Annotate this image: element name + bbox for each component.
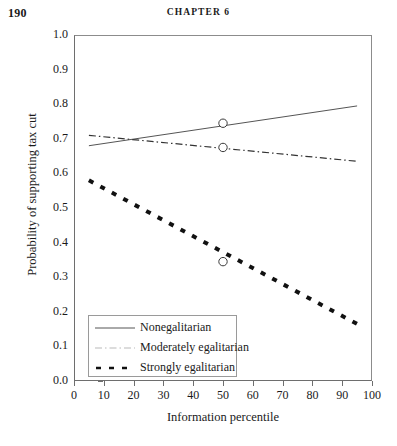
y-axis-tick-labels: 0.00.10.20.30.40.50.60.70.80.91.0 (24, 35, 68, 381)
x-tick-mark (193, 381, 194, 386)
y-tick-label: 0.2 (32, 305, 68, 317)
x-tick-mark (104, 381, 105, 386)
series-line (89, 180, 357, 324)
x-tick-mark (74, 381, 75, 386)
x-tick-mark (372, 381, 373, 386)
x-tick-label: 40 (178, 389, 208, 401)
y-tick-label: 0.4 (32, 236, 68, 248)
running-head: 190 CHAPTER 6 (0, 6, 397, 24)
x-tick-mark (283, 381, 284, 386)
legend-label: Nonegalitarian (140, 319, 211, 335)
x-tick-label: 70 (268, 389, 298, 401)
x-tick-mark (342, 381, 343, 386)
data-point-marker (219, 119, 227, 127)
chapter-title: CHAPTER 6 (0, 7, 397, 17)
x-tick-label: 10 (89, 389, 119, 401)
y-tick-label: 0.8 (32, 97, 68, 109)
x-tick-label: 90 (327, 389, 357, 401)
x-tick-label: 80 (297, 389, 327, 401)
x-tick-label: 30 (148, 389, 178, 401)
legend-line-icon (95, 326, 135, 330)
x-tick-mark (223, 381, 224, 386)
x-tick-label: 50 (208, 389, 238, 401)
x-tick-label: 100 (357, 389, 387, 401)
legend-item-strongly-egalitarian: Strongly egalitarian (89, 357, 238, 377)
legend-item-moderately-egalitarian: Moderately egalitarian (89, 337, 238, 357)
x-tick-label: 60 (238, 389, 268, 401)
y-tick-label: 0.9 (32, 63, 68, 75)
y-tick-label: 1.0 (32, 28, 68, 40)
x-axis-tick-labels: 0102030405060708090100 (74, 381, 372, 405)
x-tick-label: 0 (59, 389, 89, 401)
legend-label: Moderately egalitarian (140, 339, 249, 355)
data-point-marker (219, 143, 227, 151)
x-tick-mark (134, 381, 135, 386)
legend-label: Strongly egalitarian (140, 359, 235, 375)
figure: Probability of supporting tax cut 0.00.1… (0, 24, 397, 444)
y-tick-label: 0.5 (32, 201, 68, 213)
legend-line-icon (95, 346, 135, 350)
y-tick-label: 0.6 (32, 166, 68, 178)
y-tick-label: 0.7 (32, 132, 68, 144)
legend-item-nonegalitarian: Nonegalitarian (89, 317, 238, 337)
x-tick-mark (163, 381, 164, 386)
x-tick-mark (253, 381, 254, 386)
legend: Nonegalitarian Moderately egalitarian St… (88, 315, 237, 377)
y-tick-label: 0.0 (32, 374, 68, 386)
y-tick-label: 0.3 (32, 270, 68, 282)
y-tick-label: 0.1 (32, 339, 68, 351)
legend-line-icon (95, 366, 135, 370)
x-tick-mark (312, 381, 313, 386)
x-axis-title: Information percentile (74, 410, 372, 425)
x-tick-label: 20 (119, 389, 149, 401)
data-point-marker (219, 257, 227, 265)
